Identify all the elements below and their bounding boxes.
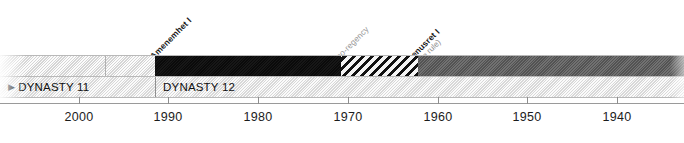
timeline-figure: Amenemhet I co-regency Senusret I (sole … — [0, 0, 684, 143]
dynasty-label: DYNASTY 12 — [155, 81, 235, 93]
axis-tick-label: 2000 — [64, 110, 93, 124]
axis-tick — [79, 97, 80, 104]
reign-band — [0, 55, 684, 77]
dynasty-segment-12: DYNASTY 12 — [155, 77, 684, 97]
reign-segment-co-regency — [341, 56, 418, 76]
axis-tick — [348, 97, 349, 104]
axis-tick-label: 1970 — [333, 110, 362, 124]
axis-tick — [168, 97, 169, 104]
axis-tick — [438, 97, 439, 104]
dynasty-divider — [155, 77, 156, 97]
reign-segment-senusret-i — [418, 56, 684, 76]
band-divider — [105, 56, 106, 76]
axis-tick-label: 1960 — [423, 110, 452, 124]
axis-tick-label: 1990 — [153, 110, 182, 124]
axis-tick — [258, 97, 259, 104]
axis-tick-label: 1950 — [512, 110, 541, 124]
axis-line — [0, 103, 684, 104]
dynasty-band: ▶ DYNASTY 11 DYNASTY 12 — [0, 77, 684, 98]
reign-segment-pre-dynasty-12 — [0, 56, 155, 76]
axis-tick — [527, 97, 528, 104]
axis-tick-label: 1940 — [602, 110, 631, 124]
axis-tick — [617, 97, 618, 104]
dynasty-label: DYNASTY 11 — [18, 81, 89, 93]
dynasty-segment-11: ▶ DYNASTY 11 — [0, 77, 155, 97]
reign-segment-amenemhet-i — [155, 56, 341, 76]
axis-tick-label: 1980 — [243, 110, 272, 124]
dynasty-continuation-marker: ▶ — [0, 83, 18, 92]
